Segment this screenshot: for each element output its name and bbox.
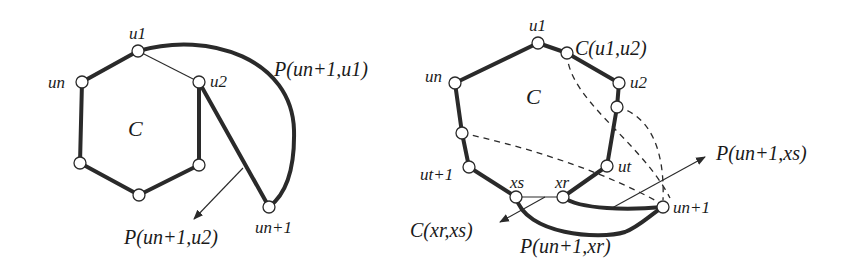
label-u1: u1 [529,16,546,35]
pointer-arrow-c-xr-xs [500,197,545,222]
node-c-u1-u2 [561,47,573,59]
label-p-un1-xs: P(un+1,xs) [715,142,807,165]
label-un1: un+1 [255,218,292,237]
node-u2 [193,76,205,88]
label-u1: u1 [129,24,146,43]
path-p-un1-xs-lower [516,197,663,235]
node-xr [557,191,569,203]
path-p-un1-u2 [199,82,269,207]
label-c-u1-u2: C(u1,u2) [575,37,647,60]
label-cycle-c: C [128,116,143,141]
node-ut [601,160,613,172]
edge-lowerleft-bottom [80,163,139,195]
label-p-un1-u2: P(un+1,u2) [123,226,218,249]
edge-u1-un [82,51,138,82]
label-cycle-c: C [526,84,541,109]
label-xr: xr [554,173,570,192]
edge-u1-u2-thin [138,51,199,82]
node-u1 [532,37,544,49]
node-lower-left [74,157,86,169]
dashed-path-from-u2-below [617,107,663,200]
label-c-xr-xs: C(xr,xs) [410,219,473,242]
edge-un-lowerleft [80,82,82,163]
left-panel: u1 u2 un C un+1 P(un+1,u1) P(un+1,u2) [48,24,368,249]
label-p-un1-xr: P(un+1,xr) [519,235,611,258]
dashed-path-from-cnode [567,53,670,198]
node-u2 [613,77,625,89]
edge-u1-un [455,43,538,83]
label-ut: ut [618,157,633,176]
node-un1 [263,201,275,213]
node-below-u2 [611,101,623,113]
label-p-un1-u1: P(un+1,u1) [273,58,368,81]
right-panel: u1 C(u1,u2) u2 un C ut ut+1 xs xr un+1 P… [410,16,807,258]
node-un [76,76,88,88]
label-un: un [425,67,442,86]
diagram-canvas: u1 u2 un C un+1 P(un+1,u1) P(un+1,u2) [0,0,865,277]
edge-bottom-lowerright [139,165,199,195]
label-un: un [48,73,65,92]
node-lower-right [193,159,205,171]
node-u1 [132,45,144,57]
node-left-mid [456,127,468,139]
node-ut1 [463,161,475,173]
node-bottom [133,189,145,201]
edge-leftmid-un [455,83,462,133]
pointer-arrow-p-un1-u2 [194,168,243,219]
label-u2: u2 [630,73,648,92]
edge-below-ut [607,107,617,166]
node-un [449,77,461,89]
node-xs [510,191,522,203]
edge-ut-xr [563,166,607,197]
label-u2: u2 [210,72,228,91]
right-cycle-edges [455,43,619,197]
label-un1: un+1 [673,198,710,217]
edge-xs-ut1 [469,167,516,197]
label-ut1: ut+1 [420,165,453,184]
node-un1 [657,201,669,213]
label-xs: xs [509,173,525,192]
